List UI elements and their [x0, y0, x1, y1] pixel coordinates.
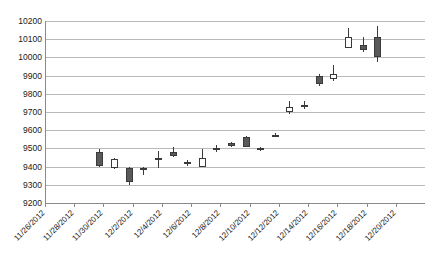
y-axis-labels: 1020010100100009900980097009600950094009… — [0, 0, 42, 267]
candle-body — [243, 137, 250, 146]
x-axis-tick-label: 12/18/2012 — [334, 209, 368, 243]
candlestick — [228, 21, 235, 203]
candlestick — [301, 21, 308, 203]
candle-body — [199, 158, 206, 167]
candlestick — [330, 21, 337, 203]
y-axis-tick-label: 9300 — [2, 181, 42, 190]
candlestick — [170, 21, 177, 203]
y-axis-tick-label: 9700 — [2, 108, 42, 117]
x-axis-line — [45, 203, 425, 204]
candlestick — [126, 21, 133, 203]
candlestick — [374, 21, 381, 203]
x-axis-tick-label: 12/14/2012 — [276, 209, 310, 243]
x-axis-tick-label: 11/30/2012 — [72, 209, 106, 243]
candlestick — [111, 21, 118, 203]
x-axis-tick-label: 12/16/2012 — [305, 209, 339, 243]
x-axis-tick-label: 11/28/2012 — [42, 209, 76, 243]
candlestick — [140, 21, 147, 203]
y-axis-tick-label: 9600 — [2, 126, 42, 135]
x-axis-tick-label: 12/2/2012 — [104, 209, 135, 240]
candle-body — [111, 159, 118, 167]
candlestick — [257, 21, 264, 203]
candlestick-chart: 1020010100100009900980097009600950094009… — [0, 0, 432, 267]
candlestick — [345, 21, 352, 203]
y-axis-tick-label: 9800 — [2, 90, 42, 99]
candlestick — [360, 21, 367, 203]
candlestick — [96, 21, 103, 203]
x-axis-tick-label: 12/6/2012 — [162, 209, 193, 240]
candlestick — [286, 21, 293, 203]
candle-body — [360, 45, 367, 50]
candlestick — [243, 21, 250, 203]
candle-body — [126, 168, 133, 182]
candle-body — [140, 168, 147, 170]
candle-body — [228, 143, 235, 146]
x-axis-tick-label: 12/8/2012 — [191, 209, 222, 240]
candle-body — [316, 76, 323, 84]
candle-body — [286, 107, 293, 112]
plot-area — [45, 21, 425, 203]
candlestick — [316, 21, 323, 203]
y-axis-tick-label: 9200 — [2, 199, 42, 208]
candle-body — [272, 135, 279, 137]
x-axis-tick-label: 12/10/2012 — [217, 209, 251, 243]
y-axis-tick-label: 10100 — [2, 35, 42, 44]
y-axis-tick-label: 10000 — [2, 53, 42, 62]
candle-body — [374, 37, 381, 57]
candlestick — [213, 21, 220, 203]
candle-body — [257, 148, 264, 150]
x-axis-tick-label: 12/20/2012 — [363, 209, 397, 243]
y-axis-tick-label: 10200 — [2, 17, 42, 26]
candlestick — [155, 21, 162, 203]
candlestick — [199, 21, 206, 203]
candle-body — [330, 74, 337, 79]
candlestick — [272, 21, 279, 203]
candle-body — [213, 148, 220, 150]
x-axis-tick-label: 12/4/2012 — [133, 209, 164, 240]
candlestick — [184, 21, 191, 203]
y-axis-tick-label: 9500 — [2, 144, 42, 153]
y-axis-tick-label: 9900 — [2, 71, 42, 80]
y-axis-line — [45, 21, 46, 203]
candle-body — [155, 158, 162, 160]
candle-body — [184, 162, 191, 164]
candle-body — [96, 152, 103, 166]
candle-body — [301, 105, 308, 107]
candle-body — [345, 37, 352, 48]
x-axis-tick-label: 12/12/2012 — [247, 209, 281, 243]
y-axis-tick-label: 9400 — [2, 162, 42, 171]
candle-body — [170, 152, 177, 156]
